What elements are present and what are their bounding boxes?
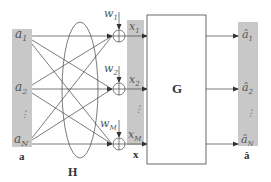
output-ellipsis: ⋮ bbox=[246, 108, 255, 118]
link-2-1 bbox=[32, 36, 112, 85]
received-vector-label: x bbox=[133, 148, 139, 160]
received-ellipsis: ⋮ bbox=[134, 104, 143, 114]
noise-1: w1 bbox=[104, 7, 118, 22]
channel-ellipse bbox=[62, 22, 98, 158]
channel-label: H bbox=[68, 165, 78, 179]
link-1-2 bbox=[32, 40, 112, 89]
link-N-2 bbox=[32, 89, 112, 140]
input-ellipsis: ⋮ bbox=[20, 109, 29, 119]
noise-2: w2 bbox=[104, 62, 118, 77]
mimo-system-diagram: a1 a2 ⋮ aN a H w1 w2 wM x1 x2 ⋮ xM x G â… bbox=[0, 0, 271, 182]
g-to-output-arrows bbox=[206, 36, 238, 144]
processor-label: G bbox=[172, 81, 182, 96]
input-vector-label: a bbox=[19, 150, 25, 162]
output-vector-label: â bbox=[244, 149, 250, 161]
noise-M: wM bbox=[100, 117, 117, 132]
